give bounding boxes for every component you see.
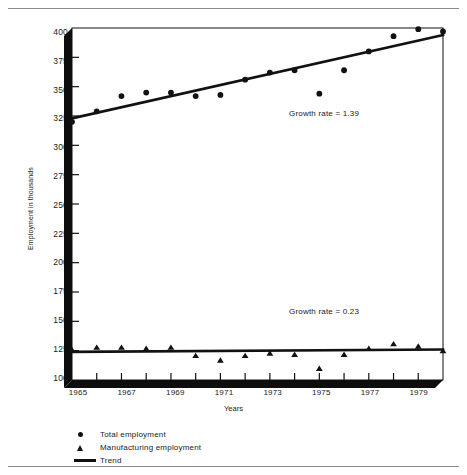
annotation-growth-rate-manufacturing: Growth rate = 0.23	[289, 307, 359, 316]
chart-legend: Total employment Manufacturing employmen…	[74, 428, 201, 467]
triangle-marker-icon	[74, 445, 100, 451]
legend-label: Trend	[100, 456, 122, 465]
circle-marker-icon	[74, 432, 100, 437]
line-marker-icon	[74, 459, 100, 462]
legend-item-trend: Trend	[74, 454, 201, 467]
plot-area	[0, 0, 467, 475]
legend-label: Total employment	[100, 430, 166, 439]
legend-item-total-employment: Total employment	[74, 428, 201, 441]
legend-label: Manufacturing employment	[100, 443, 201, 452]
axis-frame	[64, 28, 443, 388]
legend-item-manufacturing-employment: Manufacturing employment	[74, 441, 201, 454]
annotation-growth-rate-total: Growth rate = 1.39	[289, 109, 359, 118]
employment-trend-chart: Employment in thousands 400 375 350 325 …	[0, 0, 467, 475]
